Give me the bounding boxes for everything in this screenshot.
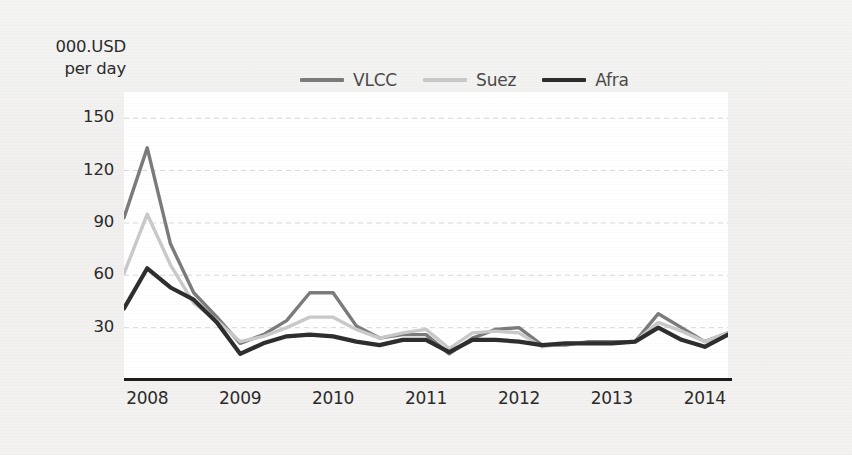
chart-figure: 000.USD per day VLCCSuezAfra 30609012015… [0,0,852,455]
x-tick-2012: 2012 [484,388,554,408]
legend-swatch-vlcc [300,78,344,82]
series-line-suez [124,214,728,348]
y-axis-title-line1: 000.USD [55,37,126,56]
chart-svg [124,92,728,380]
legend-label-afra: Afra [595,70,629,90]
y-tick-150: 150 [36,107,114,126]
grid-lines [124,118,728,327]
series-lines [124,148,728,354]
x-tick-2009: 2009 [205,388,275,408]
legend-label-suez: Suez [476,70,516,90]
y-tick-120: 120 [36,160,114,179]
y-axis-title-line2: per day [30,58,126,80]
x-tick-2008: 2008 [112,388,182,408]
plot-area [124,92,728,380]
y-tick-60: 60 [36,264,114,283]
x-axis-line [124,378,732,381]
legend-item-vlcc[interactable]: VLCC [300,70,397,90]
legend-label-vlcc: VLCC [353,70,397,90]
y-tick-90: 90 [36,212,114,231]
legend-swatch-suez [423,78,467,82]
legend-item-suez[interactable]: Suez [423,70,516,90]
series-line-afra [124,268,728,354]
x-tick-2013: 2013 [577,388,647,408]
y-tick-30: 30 [36,317,114,336]
x-tick-2011: 2011 [391,388,461,408]
x-tick-2014: 2014 [670,388,740,408]
x-tick-2010: 2010 [298,388,368,408]
y-axis-title: 000.USD per day [30,36,126,80]
chart-legend: VLCCSuezAfra [300,70,629,90]
legend-swatch-afra [542,78,586,82]
legend-item-afra[interactable]: Afra [542,70,629,90]
